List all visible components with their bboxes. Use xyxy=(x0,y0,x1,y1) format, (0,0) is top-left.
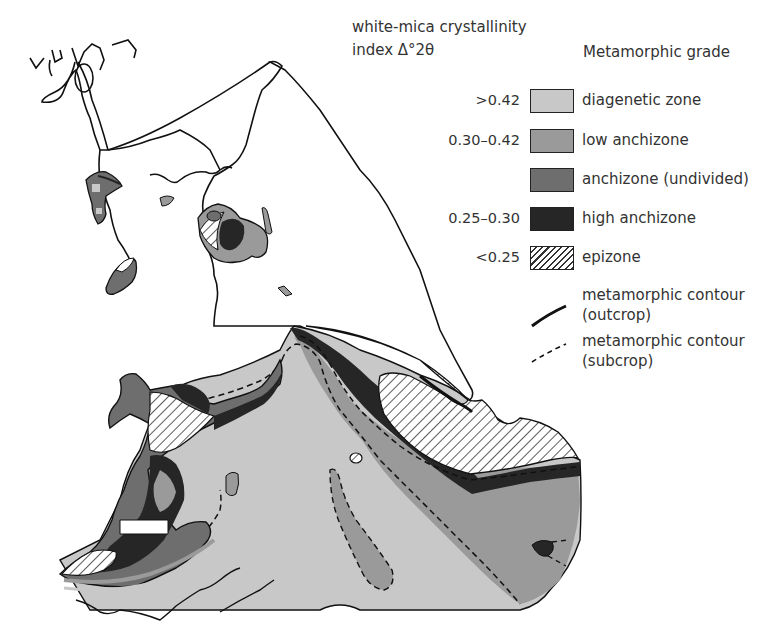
legend-value: 0.25–0.30 xyxy=(448,210,520,226)
legend-value: <0.25 xyxy=(476,249,520,265)
legend-value: 0.30–0.42 xyxy=(448,132,520,148)
outcrop-contour-label-line1: metamorphic contour xyxy=(582,286,745,304)
southern-uplands-zone xyxy=(86,172,122,224)
isle-of-man-zone xyxy=(106,258,137,294)
solway-inlier xyxy=(160,196,174,206)
subcrop-contour-sample-icon xyxy=(532,344,566,362)
legend-label: high anchizone xyxy=(582,209,696,227)
north-coast xyxy=(108,130,220,170)
legend-value: >0.42 xyxy=(476,92,520,108)
legend-item-anchizone-undivided: anchizone (undivided) xyxy=(420,168,760,192)
legend-label: epizone xyxy=(582,248,641,266)
subcrop-contour-label-line1: metamorphic contour xyxy=(582,332,745,350)
subcrop-contour-label-line2: (subcrop) xyxy=(582,352,653,370)
epizone-hatched-swatch-icon xyxy=(530,246,574,270)
diagenetic-swatch-icon xyxy=(530,89,574,113)
outcrop-contour-label-line2: (outcrop) xyxy=(582,306,651,324)
grade-title: Metamorphic grade xyxy=(583,43,730,61)
legend-label: anchizone (undivided) xyxy=(582,170,749,188)
low-anchizone-swatch-icon xyxy=(530,129,574,153)
legend-item-diagenetic: >0.42 diagenetic zone xyxy=(420,89,760,113)
northern-coastline xyxy=(30,40,270,150)
legend-item-epizone: <0.25 epizone xyxy=(420,246,760,270)
legend-item-low-anchizone: 0.30–0.42 low anchizone xyxy=(420,129,760,153)
index-title-line1: white-mica crystallinity xyxy=(352,18,527,36)
index-title-line2: index Δ°2θ xyxy=(352,41,434,59)
high-anchizone-swatch-icon xyxy=(530,207,574,231)
legend-label: diagenetic zone xyxy=(582,91,701,109)
legend-item-high-anchizone: 0.25–0.30 high anchizone xyxy=(420,207,760,231)
legend-label: low anchizone xyxy=(582,131,689,149)
anchizone-swatch-icon xyxy=(530,168,574,192)
outcrop-contour-sample-icon xyxy=(532,306,566,326)
